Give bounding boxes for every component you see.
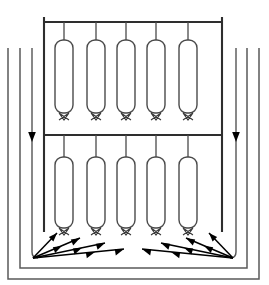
schematic-drawing xyxy=(0,0,269,285)
flow-ray-arrowhead xyxy=(71,238,80,245)
tube-assembly xyxy=(147,135,165,235)
tube-body xyxy=(117,157,135,228)
right-downflow-arrowhead xyxy=(232,132,240,142)
tube-body xyxy=(55,40,73,113)
tube-nozzle-icon xyxy=(183,113,193,120)
tube-body xyxy=(55,157,73,228)
flow-ray-arrowhead xyxy=(186,238,195,245)
tube-assembly xyxy=(55,22,73,120)
upper-tube-bank xyxy=(55,22,197,120)
flow-ray-mid-chevron xyxy=(171,252,180,258)
left-flow-fan xyxy=(33,233,124,258)
diagram-canvas xyxy=(0,0,269,285)
flow-ray-line xyxy=(161,243,233,258)
flow-ray xyxy=(161,243,233,258)
flow-ray-arrowhead xyxy=(115,249,124,255)
tube-nozzle-icon xyxy=(59,113,69,120)
flow-ray-arrowhead xyxy=(161,243,170,250)
tube-body xyxy=(87,157,105,228)
tube-assembly xyxy=(147,22,165,120)
tube-assembly xyxy=(55,135,73,235)
tube-body xyxy=(179,40,197,113)
flow-ray-arrowhead xyxy=(96,243,105,250)
right-downflow-line xyxy=(230,48,236,258)
right-flow-fan xyxy=(142,233,233,258)
tube-body xyxy=(87,40,105,113)
tube-assembly xyxy=(179,135,197,235)
tube-body xyxy=(147,157,165,228)
tube-body xyxy=(147,40,165,113)
tube-nozzle-icon xyxy=(151,228,161,235)
flow-ray xyxy=(33,243,105,258)
flow-ray-line xyxy=(33,243,105,258)
tube-assembly xyxy=(117,135,135,235)
tube-nozzle-icon xyxy=(91,113,101,120)
tube-nozzle-icon xyxy=(59,228,69,235)
tube-body xyxy=(117,40,135,113)
flow-ray-arrowhead xyxy=(142,249,151,255)
tube-assembly xyxy=(179,22,197,120)
lower-tube-bank xyxy=(55,135,197,235)
left-downflow-arrowhead xyxy=(28,132,36,142)
flow-ray-mid-chevron xyxy=(86,252,95,258)
tube-nozzle-icon xyxy=(121,113,131,120)
tube-nozzle-icon xyxy=(91,228,101,235)
left-downflow-line xyxy=(32,48,38,258)
tube-nozzle-icon xyxy=(121,228,131,235)
tube-body xyxy=(179,157,197,228)
tube-assembly xyxy=(87,135,105,235)
tube-nozzle-icon xyxy=(151,113,161,120)
tube-nozzle-icon xyxy=(183,228,193,235)
tube-assembly xyxy=(117,22,135,120)
tube-assembly xyxy=(87,22,105,120)
